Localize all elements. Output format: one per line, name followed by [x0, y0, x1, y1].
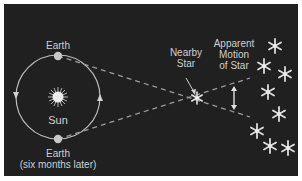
nearby-star-label-line2: Star [164, 58, 208, 69]
apparent-motion-label: Apparent Motion of Star [204, 38, 264, 71]
nearby-star-label-line1: Nearby [164, 47, 208, 58]
apparent-motion-arrow-icon [231, 86, 237, 110]
earth-bottom-label: Earth (six months later) [8, 148, 108, 170]
background-star-icon [269, 39, 281, 53]
earth-top-label: Earth [36, 40, 80, 51]
earth-bottom-label-line2: (six months later) [8, 159, 108, 170]
sun-label: Sun [36, 115, 80, 126]
sun-icon [48, 87, 68, 107]
diagram-frame: Earth Sun Earth (six months later) Nearb… [4, 4, 298, 176]
apparent-motion-label-line2: Motion [204, 49, 264, 60]
background-star-icon [262, 85, 274, 99]
background-star-icon [282, 141, 294, 155]
orbit-arrow-left-icon [13, 92, 19, 99]
nearby-star-pointer-head-icon [191, 89, 196, 95]
nearby-star-icon [192, 92, 202, 104]
background-star-icon [279, 67, 291, 81]
nearby-star-label: Nearby Star [164, 47, 208, 69]
earth-bottom-icon [54, 135, 62, 143]
apparent-motion-label-line3: of Star [204, 60, 264, 71]
earth-bottom-label-line1: Earth [8, 148, 108, 159]
apparent-motion-label-line1: Apparent [204, 38, 264, 49]
background-star-icon [251, 124, 263, 138]
background-star-icon [273, 107, 285, 121]
earth-top-icon [54, 52, 62, 60]
background-star-icon [264, 139, 276, 153]
orbit-arrow-right-icon [97, 94, 103, 101]
